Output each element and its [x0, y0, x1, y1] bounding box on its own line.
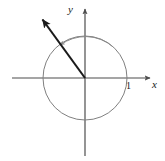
y-axis: y	[67, 3, 85, 156]
terminal-ray-vector	[43, 20, 86, 79]
x-unit-tick-label: 1	[126, 80, 131, 91]
y-axis-label: y	[67, 3, 73, 15]
unit-circle-figure: x y 1	[0, 0, 165, 161]
x-axis-label: x	[151, 78, 157, 90]
angle-arc	[60, 37, 113, 47]
figure-canvas: x y 1	[0, 0, 165, 161]
